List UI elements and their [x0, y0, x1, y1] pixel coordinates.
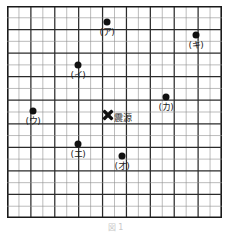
earthquake-grid-figure: (ア)(キ)(イ)(カ)(ウ)(エ)(オ) 震源 図 1 — [0, 0, 231, 234]
station-point-u — [30, 108, 37, 115]
station-label-o: (オ) — [114, 161, 129, 172]
station-point-a — [104, 19, 111, 26]
station-label-ki: (キ) — [188, 40, 203, 51]
epicenter-label: 震源 — [114, 113, 131, 123]
station-label-a: (ア) — [99, 27, 114, 38]
station-point-o — [119, 153, 126, 160]
station-label-u: (ウ) — [25, 116, 40, 127]
epicenter-x-icon — [103, 107, 114, 118]
station-label-ka: (カ) — [158, 102, 173, 113]
station-label-e: (エ) — [70, 149, 85, 160]
station-point-i — [75, 62, 82, 69]
station-point-ki — [193, 32, 200, 39]
grid-area: (ア)(キ)(イ)(カ)(ウ)(エ)(オ) 震源 — [7, 6, 222, 218]
figure-caption: 図 1 — [0, 223, 231, 233]
station-label-i: (イ) — [70, 70, 85, 81]
station-point-e — [75, 141, 82, 148]
station-point-ka — [163, 94, 170, 101]
